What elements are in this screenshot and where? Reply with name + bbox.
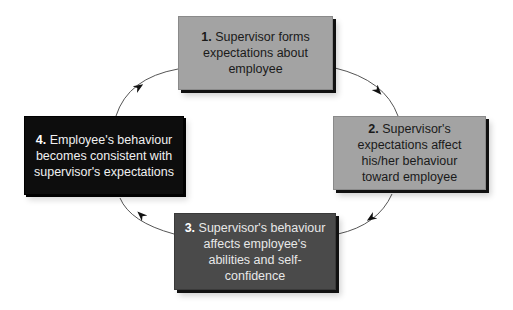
step-3-text: Supervisor's behaviour affects employee'… bbox=[199, 221, 326, 283]
step-2-content: 2. Supervisor's expectations affect his/… bbox=[342, 121, 477, 185]
arrow-2-to-3 bbox=[338, 194, 392, 234]
step-4-content: 4. Employee's behaviour becomes consiste… bbox=[33, 132, 175, 180]
step-2-box: 2. Supervisor's expectations affect his/… bbox=[333, 116, 486, 190]
step-4-number: 4. bbox=[36, 133, 46, 147]
arrow-4-to-1 bbox=[116, 69, 178, 116]
step-1-text: Supervisor forms expectations about empl… bbox=[203, 30, 310, 76]
arrow-3-to-4 bbox=[120, 198, 174, 234]
step-4-text: Employee's behaviour becomes consistent … bbox=[34, 133, 174, 179]
step-3-box: 3. Supervisor's behaviour affects employ… bbox=[174, 213, 336, 290]
step-3-content: 3. Supervisor's behaviour affects employ… bbox=[183, 220, 327, 284]
step-1-content: 1. Supervisor forms expectations about e… bbox=[187, 29, 324, 77]
step-4-box: 4. Employee's behaviour becomes consiste… bbox=[24, 116, 184, 195]
step-2-number: 2. bbox=[368, 122, 378, 136]
step-1-number: 1. bbox=[201, 30, 211, 44]
step-1-box: 1. Supervisor forms expectations about e… bbox=[178, 16, 333, 90]
arrow-1-to-2 bbox=[335, 68, 398, 116]
step-3-number: 3. bbox=[185, 221, 195, 235]
